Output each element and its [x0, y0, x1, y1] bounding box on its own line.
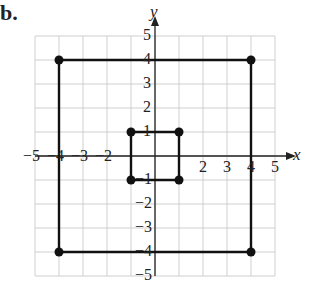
x-tick-label: −4: [47, 147, 64, 165]
y-tick-label: −3: [135, 218, 152, 236]
x-tick-label: 5: [271, 158, 279, 176]
x-tick-label: −5: [23, 147, 40, 165]
vertex-point: [247, 248, 256, 257]
vertex-point: [55, 248, 64, 257]
x-tick-label: 2: [199, 158, 207, 176]
x-tick-label: −3: [71, 147, 88, 165]
y-tick-label: −4: [135, 242, 152, 260]
y-tick-label: 2: [143, 98, 151, 116]
x-tick-label: −2: [95, 147, 112, 165]
y-tick-label: 1: [143, 122, 151, 140]
y-tick-label: −1: [135, 170, 152, 188]
y-tick-label: 3: [143, 74, 151, 92]
y-tick-label: −5: [135, 266, 152, 284]
y-tick-label: 4: [143, 50, 151, 68]
x-tick-label: 4: [247, 158, 255, 176]
y-axis-label: y: [150, 2, 158, 22]
x-axis-label: x: [293, 145, 301, 165]
y-tick-label: 5: [143, 26, 151, 44]
vertex-point: [55, 56, 64, 65]
vertex-point: [175, 176, 184, 185]
vertex-point: [175, 128, 184, 137]
y-tick-label: −2: [135, 194, 152, 212]
axes: [35, 16, 296, 276]
vertex-point: [127, 128, 136, 137]
vertex-point: [247, 56, 256, 65]
x-tick-label: 3: [223, 158, 231, 176]
